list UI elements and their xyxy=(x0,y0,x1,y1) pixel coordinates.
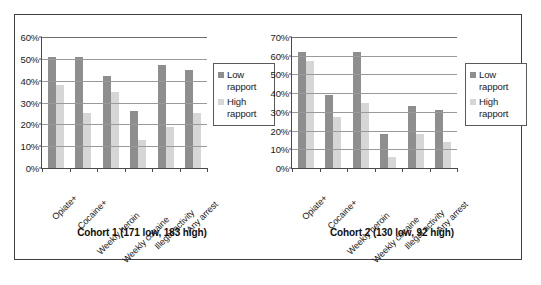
chart-panel-cohort-1: 60%50%40%30%20%10%0% Opiate+Cocaine+Week… xyxy=(15,15,269,261)
y-tick-mark xyxy=(289,74,292,75)
bar-low-rapport xyxy=(185,70,193,168)
bar-low-rapport xyxy=(353,52,361,168)
y-tick-label: 40% xyxy=(271,88,289,99)
caption-cohort-1: Cohort 1 (171 low, 183 high) xyxy=(15,227,269,238)
bar-high-rapport xyxy=(443,142,451,168)
legend-swatch-high-rapport-icon xyxy=(470,99,476,105)
y-tick-label: 50% xyxy=(21,53,39,64)
bar-high-rapport xyxy=(416,134,424,168)
y-tick-label: 30% xyxy=(271,106,289,117)
gridline xyxy=(42,59,207,60)
y-tick-mark xyxy=(289,55,292,56)
legend-cohort-2: Lowrapport Highrapport xyxy=(465,63,527,126)
x-tick-mark xyxy=(457,168,458,172)
x-axis-label: Opiate+ xyxy=(300,193,329,222)
legend-item-low-rapport: Lowrapport xyxy=(470,69,522,92)
caption-cohort-2: Cohort 2 (130 low, 92 high) xyxy=(265,227,519,238)
y-tick-label: 60% xyxy=(21,32,39,43)
y-tick-label: 70% xyxy=(271,32,289,43)
gridline xyxy=(42,37,207,38)
x-tick-mark xyxy=(207,168,208,172)
gridline xyxy=(292,93,457,94)
y-tick-mark xyxy=(289,93,292,94)
y-tick-mark xyxy=(39,58,42,59)
legend-item-high-rapport: Highrapport xyxy=(470,96,522,119)
bar-high-rapport xyxy=(333,117,341,168)
bar-low-rapport xyxy=(298,52,306,168)
y-tick-label: 60% xyxy=(271,50,289,61)
legend-item-high-rapport: Highrapport xyxy=(218,96,270,119)
bar-high-rapport xyxy=(56,85,64,168)
y-tick-label: 30% xyxy=(21,97,39,108)
bar-high-rapport xyxy=(138,140,146,168)
gridline xyxy=(292,56,457,57)
y-tick-label: 10% xyxy=(21,141,39,152)
bar-low-rapport xyxy=(130,111,138,168)
gridline xyxy=(292,149,457,150)
gridline xyxy=(42,103,207,104)
y-tick-label: 20% xyxy=(271,125,289,136)
legend-swatch-low-rapport-icon xyxy=(218,72,224,78)
y-tick-label: 10% xyxy=(271,144,289,155)
x-axis-label: Opiate+ xyxy=(50,193,79,222)
bar-high-rapport xyxy=(193,113,201,168)
y-tick-label: 0% xyxy=(26,163,39,174)
legend-swatch-low-rapport-icon xyxy=(470,72,476,78)
legend-label-high-rapport: Highrapport xyxy=(479,96,508,119)
y-tick-mark xyxy=(289,130,292,131)
x-axis-labels-cohort-2: Opiate+Cocaine+Weekly heroinWeekly cocai… xyxy=(291,169,457,227)
gridline xyxy=(292,74,457,75)
plot-axes-cohort-1: 60%50%40%30%20%10%0% xyxy=(41,37,207,169)
figure-frame: 60%50%40%30%20%10%0% Opiate+Cocaine+Week… xyxy=(14,14,522,260)
chart-panel-cohort-2: 70%60%50%40%30%20%10%0% Opiate+Cocaine+W… xyxy=(265,15,519,261)
bar-high-rapport xyxy=(83,113,91,168)
legend-label-low-rapport: Lowrapport xyxy=(227,69,256,92)
plot-area-cohort-1: 60%50%40%30%20%10%0% xyxy=(41,37,207,169)
bar-low-rapport xyxy=(380,134,388,168)
bar-low-rapport xyxy=(48,57,56,168)
gridline xyxy=(42,124,207,125)
bar-low-rapport xyxy=(435,110,443,168)
y-tick-label: 40% xyxy=(21,75,39,86)
y-tick-mark xyxy=(289,111,292,112)
bar-low-rapport xyxy=(408,106,416,168)
gridline xyxy=(42,146,207,147)
y-tick-mark xyxy=(39,80,42,81)
legend-label-high-rapport: Highrapport xyxy=(227,96,256,119)
bar-low-rapport xyxy=(75,57,83,168)
bar-high-rapport xyxy=(166,127,174,168)
gridline xyxy=(42,81,207,82)
bar-low-rapport xyxy=(103,76,111,168)
gridline xyxy=(292,131,457,132)
plot-axes-cohort-2: 70%60%50%40%30%20%10%0% xyxy=(291,37,457,169)
legend-item-low-rapport: Lowrapport xyxy=(218,69,270,92)
bar-high-rapport xyxy=(388,157,396,168)
y-tick-mark xyxy=(289,149,292,150)
y-tick-label: 50% xyxy=(271,69,289,80)
y-tick-label: 0% xyxy=(276,163,289,174)
bar-high-rapport xyxy=(306,61,314,168)
plot-area-cohort-2: 70%60%50%40%30%20%10%0% xyxy=(291,37,457,169)
gridline xyxy=(292,112,457,113)
y-tick-mark xyxy=(289,37,292,38)
x-axis-labels-cohort-1: Opiate+Cocaine+Weekly heroinWeekly cocai… xyxy=(41,169,207,227)
y-tick-label: 20% xyxy=(21,119,39,130)
y-tick-mark xyxy=(39,124,42,125)
gridline xyxy=(292,37,457,38)
y-tick-mark xyxy=(39,146,42,147)
y-tick-mark xyxy=(39,37,42,38)
legend-swatch-high-rapport-icon xyxy=(218,99,224,105)
y-tick-mark xyxy=(39,102,42,103)
legend-label-low-rapport: Lowrapport xyxy=(479,69,508,92)
